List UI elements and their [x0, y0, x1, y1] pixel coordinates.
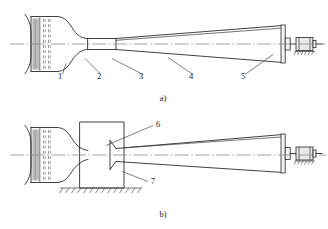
caption-a: a)	[160, 93, 167, 103]
callout-label-6: 6	[156, 119, 160, 129]
fan-hub-b	[285, 148, 290, 160]
collector-lower-b	[110, 162, 116, 170]
diffuser-lower-a	[116, 50, 283, 63]
wind-tunnel-figure: 1 2 3 4 5 a)	[0, 0, 328, 229]
callout-leader-6	[106, 126, 153, 146]
diagram-b-group: 6 7 b)	[10, 119, 326, 219]
callout-label-7: 7	[151, 176, 155, 186]
fan-plate-b	[281, 134, 285, 173]
diffuser-inner-a	[116, 28, 281, 40]
callout-label-5: 5	[241, 71, 245, 81]
callout-label-3: 3	[139, 71, 143, 81]
callout-leader-5	[245, 55, 273, 75]
diagram-a-group: 1 2 3 4 5 a)	[10, 15, 326, 104]
ground-hatch-icon-b-motor	[294, 161, 314, 165]
diffuser-a	[116, 26, 283, 39]
figure-root: 1 2 3 4 5 a)	[0, 0, 328, 229]
callout-label-2: 2	[97, 71, 101, 81]
ground-hatch-icon-b	[60, 188, 142, 193]
callout-label-1: 1	[58, 71, 62, 81]
diffuser-lower-b	[116, 162, 283, 173]
callout-leader-7	[122, 172, 148, 182]
callout-label-4: 4	[189, 71, 194, 81]
caption-b: b)	[159, 209, 166, 219]
motor-icon-b	[296, 147, 313, 160]
ground-hatch-icon-a	[294, 52, 314, 56]
diffuser-inner-b	[124, 137, 281, 148]
